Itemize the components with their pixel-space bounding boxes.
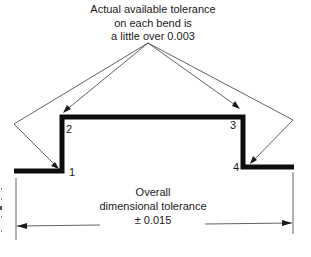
- bend-label-3: 3: [230, 119, 236, 131]
- dimension-arrow-left-icon: [17, 223, 27, 229]
- page-edge-marks: [0, 188, 2, 232]
- top-annotation: Actual available tolerance on each bend …: [90, 3, 215, 42]
- bottom-annotation-line-3: ± 0.015: [135, 214, 172, 226]
- bend-label-1: 1: [69, 166, 75, 178]
- leader-line-bend-4: [148, 43, 293, 162]
- top-annotation-line-3: a little over 0.003: [111, 30, 195, 42]
- sheet-metal-profile: [14, 117, 294, 171]
- arrow-bend-2-icon: [63, 105, 71, 113]
- top-annotation-line-2: on each bend is: [114, 17, 192, 29]
- top-annotation-line-1: Actual available tolerance: [90, 3, 215, 15]
- leader-line-bend-3: [148, 43, 238, 107]
- bottom-annotation-line-1: Overall: [136, 186, 171, 198]
- bend-labels: 1 2 3 4: [66, 119, 239, 178]
- dimension-arrow-right-icon: [282, 220, 292, 226]
- bend-label-4: 4: [233, 161, 239, 173]
- bottom-annotation: Overall dimensional tolerance ± 0.015: [99, 186, 206, 226]
- bend-tolerance-diagram: Actual available tolerance on each bend …: [0, 0, 311, 257]
- bend-label-2: 2: [66, 123, 72, 135]
- leader-line-bend-2: [65, 43, 148, 111]
- arrow-bend-1-icon: [51, 162, 59, 169]
- arrow-bend-3-icon: [232, 101, 240, 109]
- dimension-line-right: [205, 223, 292, 224]
- leader-lines: [14, 43, 293, 169]
- dimension-line-left: [17, 225, 100, 226]
- arrow-bend-4-icon: [250, 156, 257, 164]
- bottom-annotation-line-2: dimensional tolerance: [99, 200, 206, 212]
- leader-line-bend-1: [14, 43, 148, 167]
